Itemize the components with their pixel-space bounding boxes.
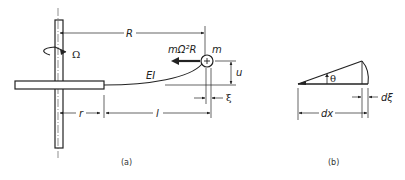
EI-label: EI <box>146 70 155 81</box>
figure-canvas: Ω R EI m mΩ²R u ξ r <box>0 0 405 180</box>
theta-label: θ <box>330 73 336 84</box>
caption-b: (b) <box>328 158 339 167</box>
force-arrow-icon <box>171 57 179 65</box>
panel-b: θ dξ dx (b) <box>298 61 393 167</box>
hub-bar <box>15 81 104 89</box>
caption-a: (a) <box>121 158 132 167</box>
l-label: l <box>156 108 159 119</box>
mass-label: m <box>212 44 222 55</box>
dx-label: dx <box>321 108 333 119</box>
force-label: mΩ²R <box>168 44 196 55</box>
omega-label: Ω <box>72 49 80 60</box>
xi-label: ξ <box>226 92 232 103</box>
dxi-label: dξ <box>381 92 393 103</box>
R-label: R <box>126 28 133 39</box>
u-label: u <box>236 67 242 78</box>
tip-mass <box>201 55 213 67</box>
panel-a: Ω R EI m mΩ²R u ξ r <box>15 8 242 167</box>
